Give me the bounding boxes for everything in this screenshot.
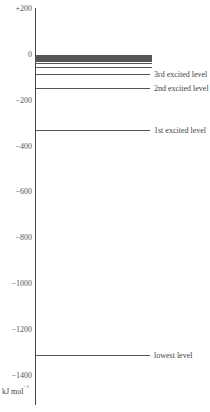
unit-label: kJ mol−1 bbox=[2, 384, 29, 396]
energy-level-label: lowest level bbox=[154, 352, 192, 360]
energy-level-line-minor bbox=[35, 61, 152, 62]
energy-level-label: 1st excited level bbox=[154, 127, 206, 135]
y-tick-label: −400 bbox=[0, 143, 32, 151]
energy-level-label: 2nd excited level bbox=[154, 85, 209, 93]
y-tick-label: −1000 bbox=[0, 280, 32, 288]
energy-level-line bbox=[35, 130, 150, 131]
y-tick-label: −600 bbox=[0, 188, 32, 196]
energy-level-line-minor bbox=[35, 63, 152, 64]
unit-main: kJ mol bbox=[2, 387, 24, 396]
energy-level-line-minor bbox=[35, 57, 152, 58]
y-tick-label: −200 bbox=[0, 97, 32, 105]
energy-level-line-minor bbox=[35, 55, 152, 56]
energy-level-line bbox=[35, 74, 150, 75]
y-tick-label: −1400 bbox=[0, 372, 32, 380]
y-tick-label: −800 bbox=[0, 234, 32, 242]
energy-level-label: 3rd excited level bbox=[154, 71, 207, 79]
unit-sup: −1 bbox=[24, 384, 29, 389]
energy-level-line bbox=[35, 355, 150, 356]
energy-level-line-minor bbox=[35, 60, 152, 61]
y-tick-label: −1200 bbox=[0, 326, 32, 334]
energy-level-line-minor bbox=[35, 58, 152, 59]
y-tick-label: 0 bbox=[0, 51, 32, 59]
y-tick-label: +200 bbox=[0, 5, 32, 13]
energy-level-line-minor bbox=[35, 67, 152, 68]
energy-level-line bbox=[35, 88, 150, 89]
